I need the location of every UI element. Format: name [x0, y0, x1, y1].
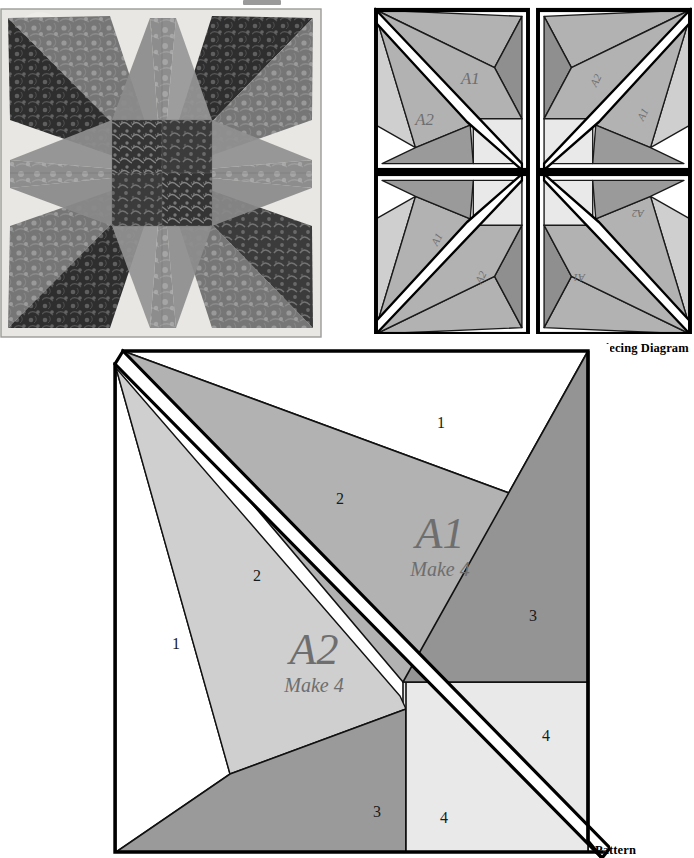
- a2-piece-3-number: 3: [373, 803, 381, 820]
- a2-unit-label-group: A2 Make 4: [283, 625, 343, 696]
- a1-make-label: Make 4: [409, 558, 469, 580]
- svg-text:A1: A1: [573, 272, 586, 284]
- svg-text:A2: A2: [631, 208, 645, 220]
- a1-piece-2-number: 2: [336, 490, 344, 507]
- a1-piece-1-number: 1: [437, 414, 445, 431]
- a1-piece-4-number: 4: [542, 727, 550, 744]
- piecing-quadrant-top-left: A1 A2: [376, 10, 528, 170]
- a1-piece-4-overlay: [406, 682, 588, 852]
- quilt-block-photo: [0, 8, 322, 338]
- a2-unit-label: A2: [287, 625, 339, 674]
- piecing-quadrant-bottom-right: [538, 174, 690, 334]
- piecing-quadrant-top-right: [538, 10, 690, 170]
- piecing-diagram-caption: Piecing Diagram: [598, 341, 689, 356]
- svg-text:A1: A1: [460, 68, 480, 87]
- a2-piece-4-number: 4: [440, 809, 448, 826]
- pattern-block: 1 2 3 4 1 2 3 4 A1 Make 4 A2 Make 4: [110, 344, 610, 858]
- a1-unit-label: A1: [413, 509, 465, 558]
- piecing-quadrant-bottom-left: [376, 174, 528, 334]
- a1-unit-label-group: A1 Make 4: [409, 509, 469, 580]
- page-root: A1 A2 A2 A1 A1 A2: [0, 0, 694, 858]
- pattern-caption: Pattern: [595, 843, 636, 858]
- a2-piece-2-number: 2: [253, 567, 261, 584]
- a1-piece-3-number: 3: [529, 607, 537, 624]
- cropped-title-remnant: [243, 0, 281, 5]
- a2-make-label: Make 4: [283, 674, 343, 696]
- a2-piece-1-number: 1: [172, 635, 180, 652]
- svg-text:A2: A2: [414, 110, 434, 129]
- piecing-diagram: A1 A2 A2 A1 A1 A2: [374, 4, 692, 334]
